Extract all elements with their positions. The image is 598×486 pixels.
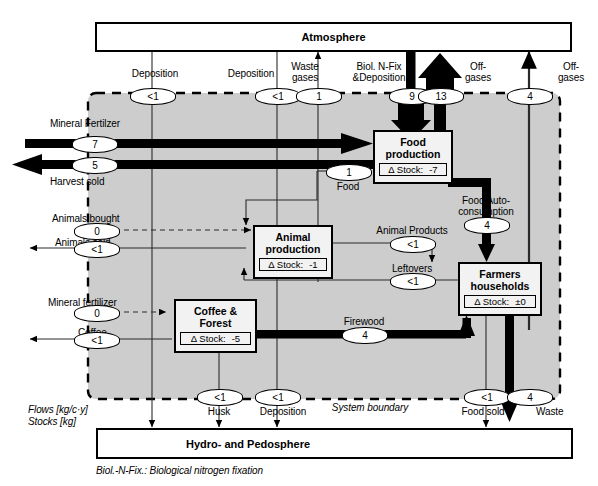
flow-value-waste-gases: 1 xyxy=(296,88,342,105)
units-stocks: Stocks [kg] xyxy=(28,416,76,427)
flow-label-food: Food xyxy=(337,181,359,192)
process-coffee-forest-title: Coffee & Forest xyxy=(176,301,255,329)
flow-label-offgases-waste: Off-gases xyxy=(551,62,591,83)
process-coffee-forest-title-line1: Coffee & xyxy=(194,305,237,317)
process-food-production-title-line1: Food xyxy=(400,136,426,148)
process-animal-production-stock: Δ Stock: -1 xyxy=(259,258,327,271)
flow-label-food-sold: Food sold xyxy=(461,406,504,417)
flow-label-husk: Husk xyxy=(208,406,230,417)
flow-value-animals-bought: 0 xyxy=(74,223,120,240)
flow-value-firewood: 4 xyxy=(342,327,388,344)
process-farmers-households-title-line1: Farmers xyxy=(479,268,520,280)
process-food-production-title: Food production xyxy=(375,132,451,160)
process-farmers-households[interactable]: Farmers households Δ Stock: ±0 xyxy=(458,262,542,316)
footnote: Biol.-N-Fix.: Biological nitrogen fixati… xyxy=(96,465,263,476)
process-animal-production-title: Animal production xyxy=(255,227,331,255)
flow-label-deposition-coffee: Deposition xyxy=(132,68,178,79)
flow-label-animal-products: Animal Products xyxy=(376,225,447,236)
reservoir-atmosphere-label: Atmosphere xyxy=(301,31,365,43)
stock-value: -7 xyxy=(429,164,437,175)
process-food-production-title-line2: production xyxy=(386,148,441,160)
flow-value-coffee: <1 xyxy=(74,332,120,349)
process-food-production[interactable]: Food production Δ Stock: -7 xyxy=(373,130,453,184)
process-farmers-households-title: Farmers households xyxy=(460,264,540,292)
process-farmers-households-title-line2: households xyxy=(471,280,530,292)
process-farmers-households-stock: Δ Stock: ±0 xyxy=(464,295,536,308)
reservoir-atmosphere: Atmosphere xyxy=(95,22,572,52)
flow-label-mineral-fertilizer-food: Mineral Fertilzer xyxy=(50,118,120,129)
flow-label-harvest-sold: Harvest sold xyxy=(50,176,104,187)
process-coffee-forest-stock: Δ Stock: -5 xyxy=(180,332,251,345)
process-animal-production-title-line2: production xyxy=(266,243,321,255)
flow-label-biol-nfix: Biol. N-Fix&Deposition xyxy=(343,62,415,83)
flow-label-waste-gases: Wastegases xyxy=(286,62,324,83)
stock-label: Δ Stock: xyxy=(268,259,303,270)
flow-value-offgases-waste: 4 xyxy=(507,88,553,105)
flow-value-animal-products: <1 xyxy=(390,236,436,253)
flow-value-animals-sold: <1 xyxy=(74,241,120,258)
flow-value-mineral-fertilizer-coffee: 0 xyxy=(74,305,120,322)
flow-value-harvest-sold: 5 xyxy=(72,157,118,174)
process-coffee-forest[interactable]: Coffee & Forest Δ Stock: -5 xyxy=(174,299,257,353)
system-boundary-label: System boundary xyxy=(332,402,408,413)
flow-label-offgases-food: Off-gases xyxy=(458,62,498,83)
stock-value: -5 xyxy=(232,333,240,344)
diagram-canvas: Atmosphere Hydro- and Pedosphere Food pr… xyxy=(0,0,598,486)
flow-value-deposition-coffee: <1 xyxy=(130,88,176,105)
process-coffee-forest-title-line2: Forest xyxy=(199,317,231,329)
flow-label-animals-bought: Animals bought xyxy=(52,213,120,224)
flow-label-waste: Waste xyxy=(536,406,563,417)
flow-label-firewood: Firewood xyxy=(344,316,384,327)
stock-value: ±0 xyxy=(515,296,526,307)
flow-value-leftovers: <1 xyxy=(390,273,436,290)
flow-value-food-sold: <1 xyxy=(464,389,510,406)
flow-label-deposition-bottom: Deposition xyxy=(260,406,306,417)
flow-value-offgases-food: 13 xyxy=(418,88,464,105)
process-animal-production-title-line1: Animal xyxy=(275,231,310,243)
reservoir-hydro-label: Hydro- and Pedosphere xyxy=(186,438,310,450)
flow-value-deposition-animal: <1 xyxy=(255,88,301,105)
stock-label: Δ Stock: xyxy=(474,296,509,307)
process-animal-production[interactable]: Animal production Δ Stock: -1 xyxy=(253,225,333,279)
flow-value-mineral-fertilizer-food: 7 xyxy=(72,136,118,153)
reservoir-hydro-pedosphere: Hydro- and Pedosphere xyxy=(96,428,573,459)
flow-value-deposition-bottom: <1 xyxy=(255,389,301,406)
flow-value-food-autoconsumption: 4 xyxy=(464,217,510,234)
flow-label-food-autoconsumption: Food Auto-consumption xyxy=(441,196,531,217)
flow-value-husk: <1 xyxy=(197,389,243,406)
stock-label: Δ Stock: xyxy=(388,164,423,175)
stock-value: -1 xyxy=(309,259,317,270)
flow-value-food: 1 xyxy=(326,164,372,181)
flow-value-waste: 4 xyxy=(507,389,553,406)
flow-label-deposition-animal: Deposition xyxy=(228,68,274,79)
process-food-production-stock: Δ Stock: -7 xyxy=(379,163,447,176)
units-flows: Flows [kg/c·y] xyxy=(28,404,88,415)
stock-label: Δ Stock: xyxy=(191,333,226,344)
